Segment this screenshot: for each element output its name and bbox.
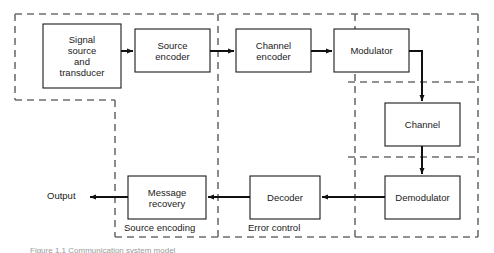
block-rectangles <box>43 24 460 219</box>
block-message-recovery <box>128 176 206 219</box>
zone-label-source-encoding: Source encoding <box>124 222 195 233</box>
block-demodulator <box>385 176 460 219</box>
signal-flow-arrows <box>90 51 422 197</box>
block-modulator <box>334 29 409 72</box>
output-label: Output <box>47 190 76 201</box>
figure-caption: Figure 1.1 Communication system model <box>30 246 330 253</box>
diagram-vector-layer <box>0 0 494 253</box>
block-channel <box>385 103 460 146</box>
block-decoder <box>250 176 320 219</box>
block-source-encoder <box>135 29 210 72</box>
zone-label-error-control: Error control <box>248 222 300 233</box>
block-diagram-canvas: Signal source and transducer Source enco… <box>0 0 494 253</box>
arrow-modulator-to-channel <box>409 51 422 101</box>
block-signal-source <box>43 24 121 88</box>
block-channel-encoder <box>236 29 311 72</box>
